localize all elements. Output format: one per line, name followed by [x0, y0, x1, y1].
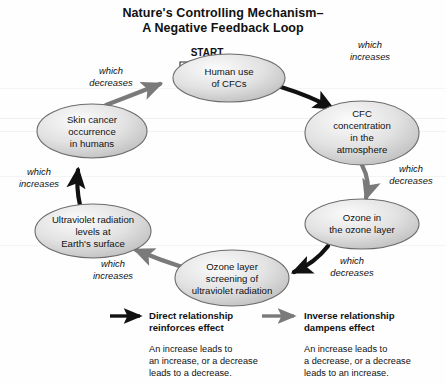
legend-body-line-2: a decrease, or a decrease [304, 356, 411, 366]
edge-label-line-2: decreases [389, 175, 433, 186]
edge-label-line-1: which [340, 255, 364, 266]
legend-body-line-3: leads to a decrease. [149, 368, 232, 378]
node-label-line-2: levels at [75, 226, 111, 237]
legend-body-line-3: leads to an increase. [304, 368, 389, 378]
legend-item-direct-relationship: Direct relationship reinforces effect An… [110, 310, 258, 378]
legend-body-line-2: an increase, or a decrease [149, 356, 258, 366]
edge-label-line-2: increases [93, 270, 133, 281]
node-label-line-2: occurrence [68, 126, 115, 137]
figure-canvas: Nature's Controlling Mechanism– A Negati… [0, 0, 446, 385]
edge-uv-levels-to-skin-cancer: which increases [19, 166, 80, 205]
edge-human-use-to-cfc-concentration: which increases [281, 39, 390, 108]
node-label-line-1: CFC [352, 108, 372, 119]
edge-label-line-2: increases [350, 51, 390, 62]
node-label-line-2: screening of [206, 273, 259, 284]
node-uv-radiation-levels[interactable]: Ultraviolet radiation levels at Earth's … [35, 204, 151, 258]
edge-ozone-to-screening: which decreases [294, 246, 374, 278]
node-label-line-1: Ozone layer [206, 261, 259, 272]
node-label-line-3: in the [350, 132, 373, 143]
node-label-line-1: Ozone in [343, 212, 381, 223]
node-human-use-of-cfcs[interactable]: Human use of CFCs [173, 54, 285, 102]
node-skin-cancer-occurrence[interactable]: Skin cancer occurrence in humans [37, 104, 147, 158]
edge-label-line-1: which [101, 258, 125, 269]
node-ozone-layer-screening[interactable]: Ozone layer screening of ultraviolet rad… [175, 250, 289, 306]
edge-label-line-1: which [99, 65, 123, 76]
node-label-line-4: atmosphere [337, 144, 388, 155]
edge-label-line-1: which [399, 163, 423, 174]
node-label-line-1: Skin cancer [67, 114, 118, 125]
node-label-line-1: Ultraviolet radiation [52, 214, 134, 225]
legend-title-line-1: Direct relationship [149, 310, 233, 321]
legend-title-line-2: reinforces effect [149, 322, 224, 333]
node-ozone-in-layer[interactable]: Ozone in the ozone layer [305, 199, 419, 249]
feedback-loop-diagram: which increases which decreases which de… [0, 0, 446, 385]
edge-label-line-2: decreases [89, 77, 133, 88]
node-label-line-3: in humans [70, 138, 114, 149]
edge-label-line-1: which [358, 39, 382, 50]
node-label-line-2: the ozone layer [329, 224, 395, 235]
legend-title-line-2: dampens effect [304, 322, 375, 333]
node-label-line-3: ultraviolet radiation [192, 285, 273, 296]
edge-label-line-2: decreases [330, 267, 374, 278]
node-label-line-2: concentration [333, 120, 391, 131]
node-label-line-1: Human use [204, 66, 253, 77]
legend-item-inverse-relationship: Inverse relationship dampens effect An i… [262, 310, 411, 378]
edge-skin-cancer-to-human-use: which decreases [89, 65, 160, 105]
legend-body-line-1: An increase leads to [304, 344, 387, 354]
node-label-line-2: of CFCs [211, 78, 246, 89]
edge-label-line-2: increases [19, 178, 59, 189]
legend-body-line-1: An increase leads to [149, 344, 232, 354]
edge-label-line-1: which [27, 166, 51, 177]
node-label-line-3: Earth's surface [61, 238, 125, 249]
node-cfc-concentration[interactable]: CFC concentration in the atmosphere [305, 101, 419, 165]
edge-cfc-concentration-to-ozone: which decreases [362, 163, 433, 198]
legend-title-line-1: Inverse relationship [304, 310, 395, 321]
